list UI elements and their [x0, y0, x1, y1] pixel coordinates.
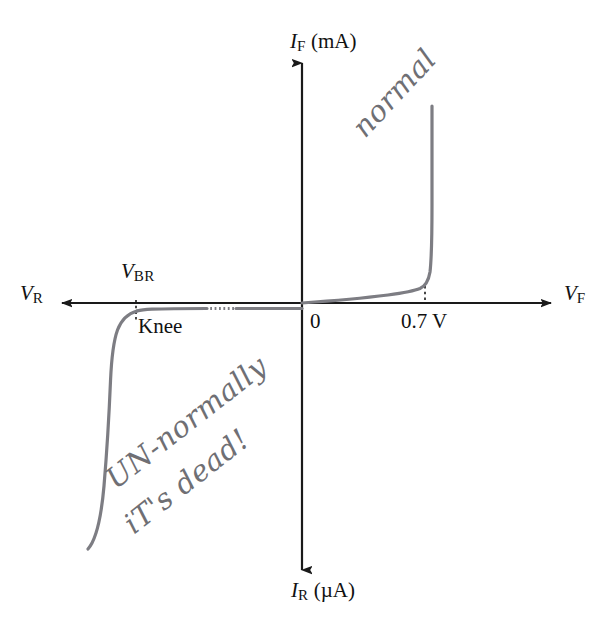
- diode-iv-characteristic-figure: IF (mA) IR (µA) VR VF VBR Knee 0 0.7 V n…: [0, 0, 603, 632]
- label-knee: Knee: [138, 316, 182, 337]
- axis-label-reverse-current: IR (µA): [291, 580, 355, 603]
- axis-label-reverse-voltage: VR: [20, 283, 43, 306]
- label-forward-voltage-tick: 0.7 V: [401, 311, 447, 332]
- axis-label-forward-current: IF (mA): [290, 31, 356, 54]
- label-origin: 0: [310, 311, 321, 332]
- axis-label-forward-voltage: VF: [564, 283, 586, 306]
- label-breakdown-voltage: VBR: [121, 261, 155, 284]
- reverse-leakage-curve-left: [137, 309, 207, 312]
- iv-curve-plot: [0, 0, 603, 632]
